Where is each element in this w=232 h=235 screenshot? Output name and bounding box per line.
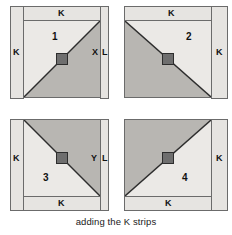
block-3-y-label: Y <box>91 154 97 163</box>
figure-caption: adding the K strips <box>0 216 232 227</box>
block-3-strip-left-label: K <box>13 154 20 163</box>
block-2-centre-marker <box>162 53 174 65</box>
block-2-strip-top-label: K <box>168 9 175 18</box>
block-2-strip-right-label: K <box>216 48 223 57</box>
block-1-x-label: X <box>92 48 98 57</box>
block-4: K K 4 <box>124 119 228 211</box>
block-3-centre-marker <box>56 152 68 164</box>
block-3-l-label: L <box>102 154 108 163</box>
block-1: K K X L 1 <box>10 6 109 99</box>
block-1-centre-marker <box>56 53 68 65</box>
block-3-strip-left <box>10 119 24 211</box>
block-3-strip-right <box>100 119 109 211</box>
block-4-strip-right <box>211 119 228 211</box>
block-4-centre-marker <box>162 152 174 164</box>
block-3-strip-bottom-label: K <box>58 199 65 208</box>
block-1-strip-top-label: K <box>58 9 65 18</box>
block-2-number: 2 <box>186 32 192 42</box>
block-1-l-label: L <box>102 48 108 57</box>
block-4-number: 4 <box>182 173 188 183</box>
quilt-block-diagram: K K X L 1 K K 2 K <box>0 0 232 235</box>
block-2: K K 2 <box>124 6 228 99</box>
block-3-number: 3 <box>43 173 49 183</box>
block-1-strip-left-label: K <box>13 48 20 57</box>
block-1-number: 1 <box>52 32 58 42</box>
block-3: K K Y L 3 <box>10 119 109 211</box>
block-4-strip-right-label: K <box>216 154 223 163</box>
block-4-strip-bottom-label: K <box>165 199 172 208</box>
